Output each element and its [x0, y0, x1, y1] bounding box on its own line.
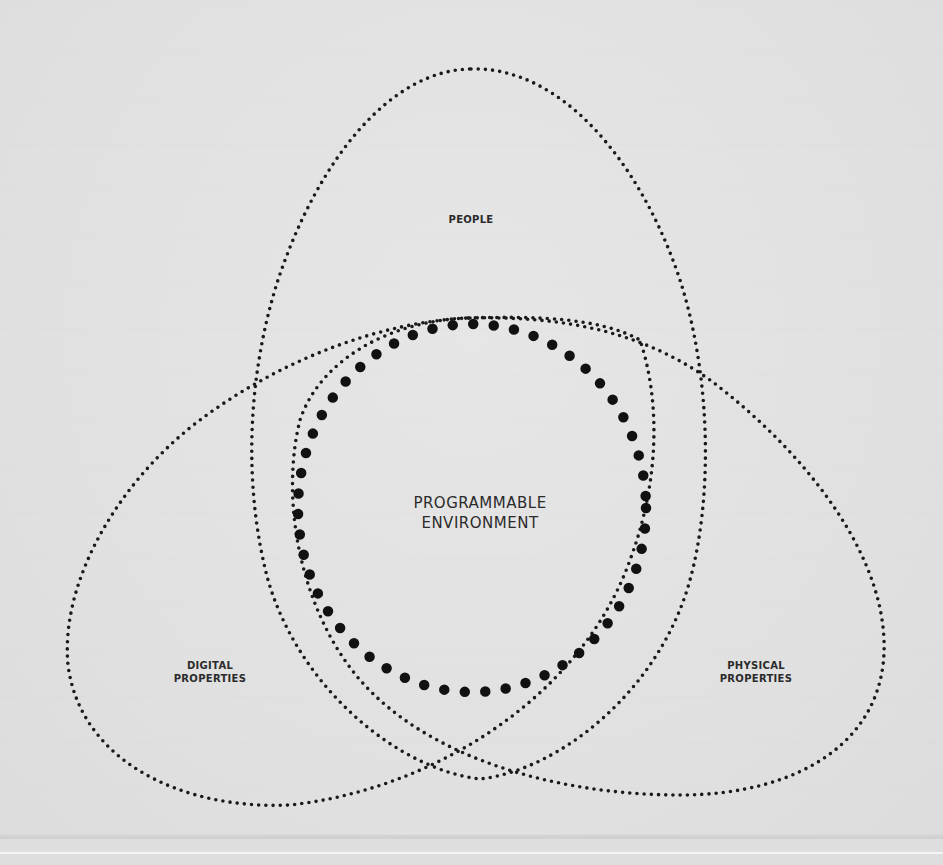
people-set-outline	[252, 69, 706, 779]
center-label-line1: PROGRAMMABLE	[360, 494, 600, 514]
digital-properties-label: DIGITAL PROPERTIES	[150, 660, 270, 685]
physical-properties-label: PHYSICAL PROPERTIES	[696, 660, 816, 685]
physical-label-line1: PHYSICAL	[696, 660, 816, 673]
digital-label-line1: DIGITAL	[150, 660, 270, 673]
people-label: PEOPLE	[421, 214, 521, 227]
digital-properties-set-outline	[67, 317, 654, 805]
physical-properties-set-outline	[293, 318, 885, 795]
center-label-line2: ENVIRONMENT	[360, 514, 600, 534]
physical-label-line2: PROPERTIES	[696, 673, 816, 686]
venn-diagram	[0, 0, 943, 865]
people-label-text: PEOPLE	[449, 214, 494, 225]
digital-label-line2: PROPERTIES	[150, 673, 270, 686]
programmable-environment-label: PROGRAMMABLE ENVIRONMENT	[360, 494, 600, 533]
